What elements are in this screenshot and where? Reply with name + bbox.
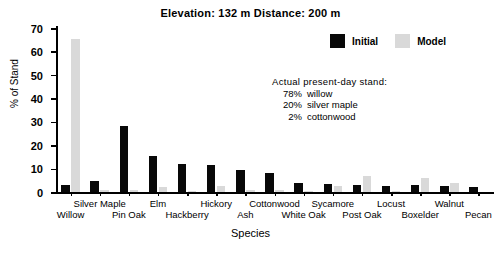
y-axis-tick-label: 30 <box>31 116 43 128</box>
bar-group <box>382 28 401 192</box>
bar-model <box>304 191 313 192</box>
x-axis-tick <box>275 192 277 196</box>
plot-area: 010203040506070 <box>56 28 493 192</box>
x-axis-tick <box>420 192 422 196</box>
x-axis-tick-label: Locust <box>377 198 405 209</box>
x-axis-tick-label: Silver Maple <box>74 198 126 209</box>
y-axis-title: % of Stand <box>9 59 20 108</box>
x-axis-tick-label: Post Oak <box>342 209 381 220</box>
x-axis-tick <box>129 192 131 196</box>
y-axis-tick: 20 <box>51 145 56 147</box>
bar-group <box>265 28 284 192</box>
bar-group <box>294 28 313 192</box>
x-axis-tick-label: Sycamore <box>311 198 354 209</box>
bar-initial <box>382 186 391 192</box>
x-axis-tick <box>362 192 364 196</box>
y-axis-tick: 70 <box>51 28 56 30</box>
y-axis-tick: 50 <box>51 75 56 77</box>
y-axis-tick: 40 <box>51 98 56 100</box>
bar-model <box>217 186 226 192</box>
x-axis-tick-label: Hackberry <box>165 209 208 220</box>
bar-model <box>188 191 197 192</box>
x-axis-tick-label: Willow <box>57 209 84 220</box>
bar-initial <box>120 126 129 192</box>
x-axis-tick-label: Walnut <box>435 198 464 209</box>
bar-initial <box>353 185 362 192</box>
bar-model <box>130 190 139 192</box>
bar-model <box>421 178 430 192</box>
x-axis-tick-label: Pin Oak <box>112 209 146 220</box>
bar-group <box>178 28 197 192</box>
bar-model <box>334 186 343 192</box>
x-axis-tick <box>304 192 306 196</box>
bar-model <box>159 187 168 192</box>
y-axis-tick-label: 10 <box>31 163 43 175</box>
bar-initial <box>61 185 70 192</box>
bar-group <box>236 28 255 192</box>
y-axis-tick: 60 <box>51 51 56 53</box>
x-axis-tick <box>449 192 451 196</box>
bar-initial <box>236 170 245 192</box>
x-axis-tick <box>333 192 335 196</box>
bar-group <box>469 28 488 192</box>
x-axis-tick-label: Cottonwood <box>249 198 300 209</box>
bar-model <box>100 190 109 192</box>
bar-initial <box>178 164 187 192</box>
bar-initial <box>469 187 478 192</box>
bar-group <box>61 28 80 192</box>
bar-initial <box>149 156 158 192</box>
chart-figure: Elevation: 132 m Distance: 200 m Initial… <box>0 0 501 253</box>
y-axis-tick-label: 50 <box>31 70 43 82</box>
bar-group <box>411 28 430 192</box>
bar-group <box>440 28 459 192</box>
x-axis-tick-label: White Oak <box>281 209 325 220</box>
bar-initial <box>411 185 420 192</box>
x-axis-tick <box>71 192 73 196</box>
x-axis-tick <box>478 192 480 196</box>
x-axis-tick <box>158 192 160 196</box>
bar-group <box>90 28 109 192</box>
bar-initial <box>294 183 303 192</box>
bar-group <box>149 28 168 192</box>
bar-initial <box>324 184 333 192</box>
bar-model <box>71 39 80 192</box>
bar-group <box>324 28 343 192</box>
x-axis-tick <box>187 192 189 196</box>
x-axis-tick <box>245 192 247 196</box>
bar-group <box>353 28 372 192</box>
y-axis-tick-label: 20 <box>31 140 43 152</box>
y-axis-tick-label: 40 <box>31 93 43 105</box>
chart-title: Elevation: 132 m Distance: 200 m <box>0 7 501 19</box>
y-axis-tick-label: 60 <box>31 46 43 58</box>
x-axis-tick <box>391 192 393 196</box>
y-axis-tick: 0 <box>51 192 56 194</box>
bar-model <box>450 183 459 192</box>
x-axis-tick <box>100 192 102 196</box>
y-axis-tick-label: 0 <box>37 187 43 199</box>
bar-model <box>392 191 401 192</box>
bar-initial <box>207 165 216 192</box>
bar-initial <box>440 186 449 192</box>
bar-model <box>275 190 284 192</box>
x-axis-tick-label: Hickory <box>200 198 232 209</box>
x-axis-tick-label: Pecan <box>465 209 492 220</box>
bar-model <box>246 190 255 192</box>
bar-initial <box>265 173 274 192</box>
bar-initial <box>90 181 99 192</box>
x-axis-tick-label: Boxelder <box>401 209 439 220</box>
x-axis-tick-label: Ash <box>237 209 253 220</box>
bar-group <box>207 28 226 192</box>
bar-group <box>120 28 139 192</box>
y-axis-tick-label: 70 <box>31 23 43 35</box>
x-axis-tick-label: Elm <box>150 198 166 209</box>
y-axis-tick: 10 <box>51 169 56 171</box>
y-axis-tick: 30 <box>51 122 56 124</box>
bar-model <box>363 176 372 192</box>
x-axis-title: Species <box>0 227 501 239</box>
x-axis-tick <box>216 192 218 196</box>
